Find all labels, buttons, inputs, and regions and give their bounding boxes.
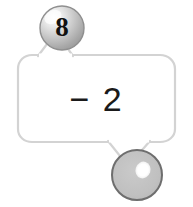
screenshot-root: − 2 8 bbox=[0, 0, 193, 207]
ball-top-label: 8 bbox=[40, 14, 84, 41]
ball-bottom[interactable] bbox=[112, 150, 162, 200]
bubble-expression: − 2 bbox=[0, 82, 193, 116]
